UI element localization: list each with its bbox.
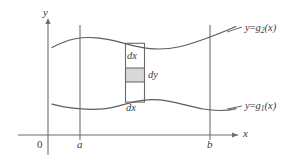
dy-shaded-cell — [126, 68, 145, 82]
upper-curve-label-argument: (x) — [265, 22, 277, 33]
origin-label: 0 — [37, 139, 43, 150]
x-axis-label: x — [243, 128, 248, 139]
x-axis — [18, 132, 238, 137]
dx-top-label: dx — [127, 51, 137, 62]
x-axis-arrowhead — [232, 132, 238, 137]
upper-curve-label: y=g2(x) — [245, 23, 276, 34]
dx-bottom-label: dx — [126, 103, 136, 114]
calculus-region-figure: y x 0 a b y=g2(x) y=g1(x) dx dy dx — [0, 0, 299, 166]
y-axis-arrowhead — [45, 18, 50, 24]
y-axis-label: y — [43, 7, 48, 18]
dy-label: dy — [148, 70, 158, 81]
tick-label-a: a — [77, 139, 83, 150]
tick-label-b: b — [207, 139, 213, 150]
lower-curve-label-argument: (x) — [265, 100, 277, 111]
lower-curve-label: y=g1(x) — [245, 101, 276, 112]
